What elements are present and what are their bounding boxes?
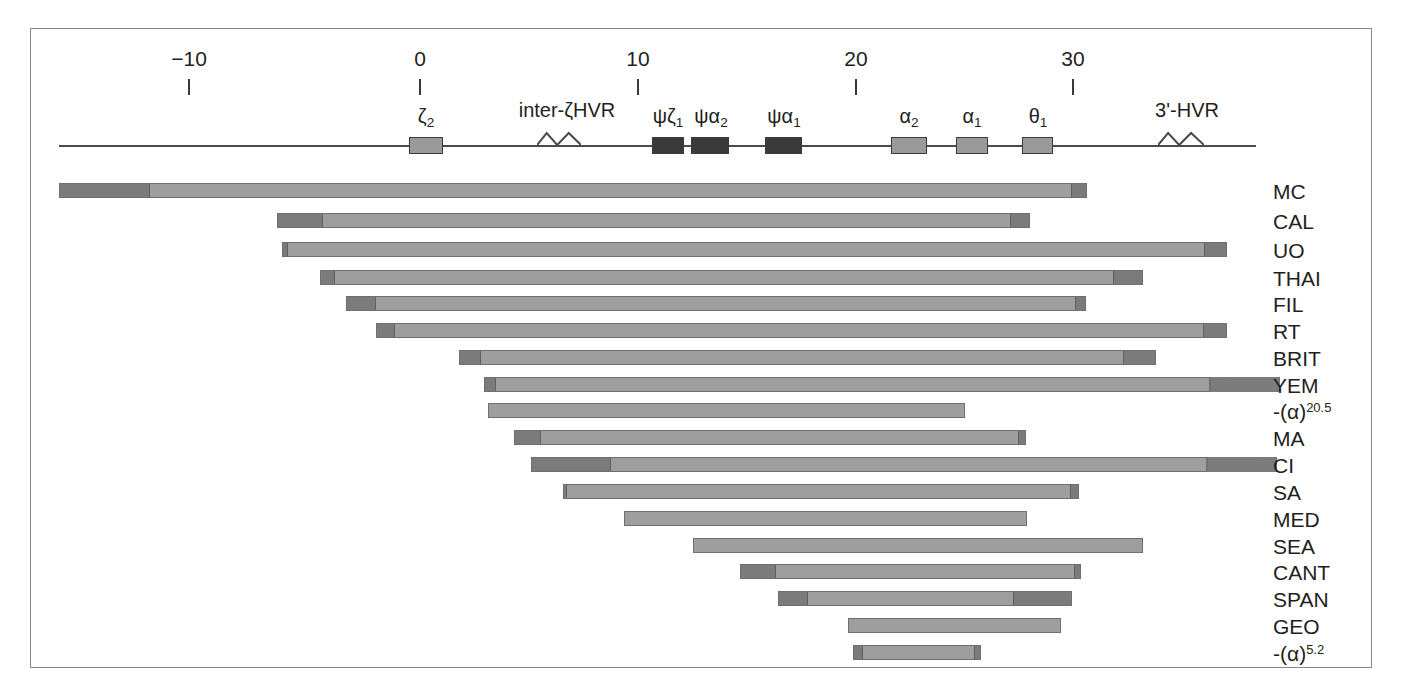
deletion-bar: [740, 564, 1081, 579]
deletion-extent: [496, 378, 1209, 391]
deletion-extent: [863, 646, 974, 659]
axis-tick-label: 30: [1061, 47, 1084, 71]
deletion-breakpoint-uncertainty-left: [377, 324, 395, 337]
deletion-bar: [624, 511, 1027, 526]
deletion-row-label: CAL: [1273, 211, 1314, 232]
deletion-breakpoint-uncertainty-right: [1018, 431, 1025, 444]
deletion-row-label: THAI: [1273, 268, 1321, 289]
gene-box-psi-alpha-1: [765, 137, 802, 154]
gene-label-three-prime-HVR: 3'-HVR: [1155, 99, 1219, 122]
deletion-bar: [848, 618, 1061, 633]
deletion-row-label: SPAN: [1273, 589, 1329, 610]
deletion-row-label: MA: [1273, 428, 1305, 449]
deletion-row-label: YEM: [1273, 375, 1319, 396]
deletion-bar: [563, 484, 1079, 499]
deletion-breakpoint-uncertainty-right: [1070, 485, 1078, 498]
deletion-row-label: UO: [1273, 240, 1305, 261]
axis-tick-mark: [1072, 79, 1074, 95]
gene-box-psi-zeta-1: [652, 137, 684, 154]
deletion-bar: [514, 430, 1026, 445]
deletion-breakpoint-uncertainty-right: [1013, 592, 1071, 605]
gene-box-psi-alpha-2: [691, 137, 729, 154]
axis-tick-mark: [855, 79, 857, 95]
deletion-row-label: GEO: [1273, 616, 1320, 637]
gene-label-psi-alpha-2: ψα2: [694, 105, 727, 128]
axis-tick-mark: [637, 79, 639, 95]
deletion-bar: [59, 183, 1087, 198]
deletion-breakpoint-uncertainty-right: [974, 646, 980, 659]
deletion-breakpoint-uncertainty-left: [460, 351, 481, 364]
deletion-breakpoint-uncertainty-right: [1123, 351, 1155, 364]
gene-box-zeta-2: [409, 137, 443, 154]
deletion-row-label: MC: [1273, 181, 1306, 202]
deletion-bar: [459, 350, 1156, 365]
deletion-bar: [778, 591, 1072, 606]
deletion-extent: [808, 592, 1013, 605]
deletion-bar: [320, 270, 1143, 285]
gene-label-inter-zeta-HVR: inter-ζHVR: [519, 99, 616, 122]
deletion-bar: [853, 645, 981, 660]
deletion-extent: [567, 485, 1070, 498]
deletion-bar: [346, 296, 1086, 311]
deletion-extent: [150, 184, 1071, 197]
deletion-extent: [489, 404, 964, 417]
deletion-breakpoint-uncertainty-left: [741, 565, 776, 578]
deletion-breakpoint-uncertainty-right: [1074, 565, 1080, 578]
deletion-extent: [481, 351, 1123, 364]
deletion-row-label: CANT: [1273, 562, 1330, 583]
deletion-extent: [288, 243, 1204, 256]
deletion-bar: [277, 213, 1030, 228]
deletion-bar: [693, 538, 1143, 553]
deletion-extent: [323, 214, 1010, 227]
deletion-row-label: -(α)20.5: [1273, 401, 1331, 422]
gene-label-alpha-2: α2: [899, 105, 918, 128]
deletion-breakpoint-uncertainty-right: [1203, 324, 1226, 337]
deletion-breakpoint-uncertainty-right: [1010, 214, 1029, 227]
deletion-extent: [611, 458, 1206, 471]
deletion-extent: [625, 512, 1026, 525]
axis-tick-label: 20: [844, 47, 867, 71]
deletion-open-ended-marker: [1207, 457, 1277, 472]
gene-label-psi-zeta-1: ψζ1: [653, 105, 684, 128]
deletion-bar: [531, 457, 1207, 472]
gene-box-theta-1: [1022, 137, 1053, 154]
deletion-breakpoint-uncertainty-left: [779, 592, 808, 605]
deletion-breakpoint-uncertainty-left: [347, 297, 376, 310]
deletion-bar: [376, 323, 1227, 338]
deletion-row-label: FIL: [1273, 294, 1303, 315]
axis-tick-mark: [188, 79, 190, 95]
deletion-extent: [335, 271, 1113, 284]
deletion-row-label: MED: [1273, 509, 1320, 530]
gene-box-alpha-1: [956, 137, 988, 154]
deletion-extent: [694, 539, 1142, 552]
gene-label-psi-alpha-1: ψα1: [767, 105, 800, 128]
deletion-extent: [395, 324, 1203, 337]
deletion-breakpoint-uncertainty-right: [1075, 297, 1085, 310]
gene-box-alpha-2: [891, 137, 927, 154]
deletion-row-label: -(α)5.2: [1273, 643, 1324, 664]
deletion-row-label: RT: [1273, 321, 1301, 342]
deletion-row-label: CI: [1273, 455, 1294, 476]
deletion-row-label: BRIT: [1273, 348, 1321, 369]
deletion-bar: [488, 403, 965, 418]
axis-tick-label: 0: [414, 47, 426, 71]
deletion-extent: [849, 619, 1060, 632]
deletion-breakpoint-uncertainty-left: [532, 458, 611, 471]
deletion-extent: [541, 431, 1018, 444]
deletion-breakpoint-uncertainty-right: [1204, 243, 1226, 256]
alpha-globin-deletion-figure: −100102030 ζ2inter-ζHVRψζ1ψα2ψα1α2α1θ13'…: [0, 0, 1403, 700]
deletion-open-ended-marker: [1210, 377, 1280, 392]
deletion-breakpoint-uncertainty-right: [1071, 184, 1086, 197]
deletion-breakpoint-uncertainty-left: [60, 184, 150, 197]
deletion-bar: [282, 242, 1227, 257]
deletion-breakpoint-uncertainty-right: [1113, 271, 1142, 284]
gene-label-zeta-2: ζ2: [418, 105, 434, 128]
deletion-extent: [376, 297, 1075, 310]
deletion-breakpoint-uncertainty-left: [854, 646, 863, 659]
deletion-breakpoint-uncertainty-left: [485, 378, 496, 391]
deletion-breakpoint-uncertainty-left: [321, 271, 335, 284]
axis-tick-label: 10: [626, 47, 649, 71]
figure-frame: −100102030 ζ2inter-ζHVRψζ1ψα2ψα1α2α1θ13'…: [30, 28, 1372, 668]
deletion-row-label: SEA: [1273, 536, 1315, 557]
deletion-row-label: SA: [1273, 482, 1301, 503]
